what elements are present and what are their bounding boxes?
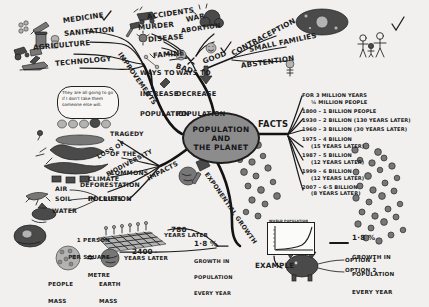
label-water[interactable]: WATER bbox=[52, 208, 77, 215]
growth-note-right: GROWTH IN POPULATION EVERY YEAR bbox=[352, 243, 394, 307]
fish-icon bbox=[58, 119, 111, 129]
label-earth-mass: EARTH MASS bbox=[99, 270, 121, 307]
water-icon bbox=[14, 225, 46, 247]
ways-decrease-line2: DECREASE bbox=[176, 91, 220, 98]
fact-5: 1975 – 4 BILLION bbox=[302, 136, 426, 142]
fact-6: (15 YEARS LATER) bbox=[311, 143, 426, 149]
population-curve bbox=[276, 227, 312, 250]
technology-icon bbox=[20, 56, 48, 70]
stumps-icon bbox=[26, 192, 50, 205]
label-deforestation[interactable]: DEFORESTATION bbox=[80, 182, 140, 189]
label-example[interactable]: EXAMPLE bbox=[255, 262, 294, 270]
growth-percent-left: 1·8 % bbox=[194, 240, 217, 248]
fact-0: FOR 3 MILLION YEARS bbox=[302, 92, 426, 98]
fact-7: 1987 – 5 BILLION bbox=[302, 152, 426, 158]
fact-2: 1800 – 1 BILLION PEOPLE bbox=[302, 108, 426, 114]
fact-3: 1930 – 2 BILLION (130 YEARS LATER) bbox=[302, 117, 426, 123]
label-2400-years-suffix: YEARS LATER bbox=[124, 256, 168, 262]
label-option-1[interactable]: OPTION 1 bbox=[345, 258, 377, 264]
label-climate-in-crisis[interactable]: CLIMATE IN CRISIS bbox=[88, 163, 122, 215]
fact-10: (12 YEARS LATER) bbox=[311, 175, 426, 181]
facts-list: FOR 3 MILLION YEARS ¼ MILLION PEOPLE 180… bbox=[302, 92, 426, 197]
family-icon bbox=[358, 17, 404, 57]
label-facts[interactable]: FACTS bbox=[258, 120, 288, 129]
fact-11: 2007 – 6·5 BILLION bbox=[302, 184, 426, 190]
condom-icon bbox=[296, 9, 348, 35]
label-soil[interactable]: SOIL bbox=[55, 196, 72, 203]
label-air[interactable]: AIR bbox=[55, 186, 67, 193]
label-pollution[interactable]: POLLUTION bbox=[88, 196, 132, 203]
growth-note-left: GROWTH IN POPULATION EVERY YEAR bbox=[194, 248, 233, 307]
fact-9: 1999 – 6 BILLION bbox=[302, 168, 426, 174]
world-population-chart bbox=[267, 222, 315, 255]
fact-12: (8 YEARS LATER) bbox=[311, 190, 426, 196]
central-line-3: THE PLANET bbox=[194, 143, 249, 152]
fact-4: 1960 – 3 BILLION (30 YEARS LATER) bbox=[302, 126, 426, 132]
speech-bubble: They are all going to go if I don't take… bbox=[57, 86, 119, 119]
central-line-2: AND bbox=[211, 134, 230, 143]
growth-percent-right: 1·8 % bbox=[352, 234, 375, 242]
label-people-mass: PEOPLE MASS bbox=[48, 270, 73, 307]
label-780-years-suffix: YEARS LATER bbox=[164, 233, 208, 239]
fact-8: (12 YEARS LATER) bbox=[311, 159, 426, 165]
ways-decrease-line3: POPULATION bbox=[176, 111, 220, 118]
speech-bubble-text: They are all going to go if I don't take… bbox=[62, 90, 114, 109]
label-option-2[interactable]: OPTION 2 bbox=[345, 268, 377, 274]
fact-1: ¼ MILLION PEOPLE bbox=[311, 99, 426, 105]
